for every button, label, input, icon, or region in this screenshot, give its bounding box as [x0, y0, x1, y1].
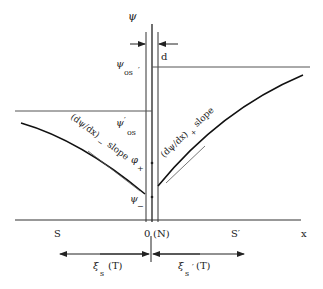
- xi-right-sub: s: [185, 269, 189, 278]
- superconductor-interface-diagram: ψ ψ os ′ ψ ′ os d (dψ/dx) − slope (dψ/dx…: [0, 0, 323, 289]
- xi-right-main: ξ: [178, 260, 184, 271]
- psi-os-top-prime: ′: [138, 65, 140, 74]
- psi-os-mid-main: ψ: [116, 117, 124, 128]
- phi-plus-sub: +: [137, 164, 144, 173]
- y-axis-label: ψ: [128, 10, 137, 23]
- right-curve: [158, 75, 303, 186]
- psi-os-top-main: ψ: [116, 58, 124, 69]
- x-label-S: S: [54, 228, 61, 239]
- psi-os-mid-prime: ′: [124, 115, 126, 124]
- phi-plus-point: [151, 162, 154, 165]
- psi-os-mid-sub: os: [127, 128, 136, 137]
- x-label-x: x: [301, 228, 307, 239]
- svg-text:−: −: [95, 138, 105, 148]
- svg-text:slope: slope: [106, 139, 131, 161]
- phi-minus-point: [151, 196, 154, 199]
- xi-right-prime: ′: [192, 262, 194, 271]
- x-label-N: (N): [153, 228, 170, 239]
- svg-text:slope: slope: [191, 105, 215, 129]
- xi-left-sub: s: [100, 269, 104, 278]
- svg-text:+: +: [189, 128, 199, 138]
- xi-left-arg: (T): [108, 260, 123, 271]
- xi-left-main: ξ: [93, 260, 99, 271]
- phi-minus-sub: −: [137, 202, 144, 211]
- psi-os-top-sub: os: [124, 68, 133, 77]
- d-label: d: [161, 51, 168, 62]
- svg-text:(dψ/dx): (dψ/dx): [69, 112, 102, 140]
- x-label-origin: 0: [144, 228, 150, 239]
- x-label-S-prime: S′: [231, 228, 241, 239]
- xi-right-arg: (T): [196, 260, 211, 271]
